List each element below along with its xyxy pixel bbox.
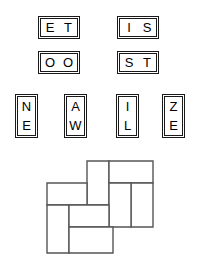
letter-tile-ze[interactable]: Z E (162, 94, 185, 138)
letter-tile-aw-letter-1: A (67, 97, 84, 116)
piece-right-inner-vertical[interactable] (109, 183, 131, 227)
piece-top-right-horizontal[interactable] (109, 161, 153, 183)
letter-tile-aw-inner-border: A W (66, 96, 85, 136)
letter-tile-et-inner-border: E T (40, 18, 78, 37)
letter-tile-il[interactable]: I L (116, 94, 139, 138)
letter-tile-il-letter-1: I (119, 97, 136, 116)
piece-top-middle-vertical[interactable] (87, 161, 109, 205)
letter-tile-st-letter-1: S (120, 56, 138, 69)
dissection-piece-layer (47, 161, 153, 253)
piece-right-upper-vertical[interactable] (131, 183, 153, 227)
rectangle-dissection-diagram (46, 160, 164, 254)
letter-tile-et-letter-1: E (41, 21, 59, 34)
letter-tile-ne-inner-border: N E (17, 96, 36, 136)
letter-tile-aw[interactable]: A W (64, 94, 87, 138)
letter-tile-aw-letter-2: W (67, 116, 84, 135)
letter-tile-is[interactable]: I S (117, 16, 159, 39)
letter-tile-ne[interactable]: N E (15, 94, 38, 138)
letter-tile-ze-letter-2: E (165, 116, 182, 135)
letter-tile-oo[interactable]: O O (38, 51, 80, 74)
piece-bottom-horizontal[interactable] (69, 227, 113, 253)
letter-tile-oo-letter-1: O (41, 56, 59, 69)
piece-left-upper-horizontal[interactable] (47, 183, 87, 205)
letter-tile-is-letter-1: I (120, 21, 138, 34)
letter-tile-ze-inner-border: Z E (164, 96, 183, 136)
letter-tile-st[interactable]: S T (117, 51, 159, 74)
letter-tile-et-letter-2: T (59, 21, 77, 34)
letter-tile-st-letter-2: T (138, 56, 156, 69)
letter-tile-oo-inner-border: O O (40, 53, 78, 72)
letter-tile-il-inner-border: I L (118, 96, 137, 136)
letter-tile-ne-letter-2: E (18, 116, 35, 135)
piece-middle-horizontal[interactable] (69, 205, 109, 227)
piece-left-lower-vertical[interactable] (47, 205, 69, 253)
letter-tile-et[interactable]: E T (38, 16, 80, 39)
letter-tile-st-inner-border: S T (119, 53, 157, 72)
letter-tile-ze-letter-1: Z (165, 97, 182, 116)
letter-tile-is-letter-2: S (138, 21, 156, 34)
puzzle-figure: E T I S O O S T N E A W (0, 0, 201, 266)
letter-tile-oo-letter-2: O (59, 56, 77, 69)
dissection-svg (46, 160, 164, 254)
letter-tile-ne-letter-1: N (18, 97, 35, 116)
letter-tile-il-letter-2: L (119, 116, 136, 135)
letter-tile-is-inner-border: I S (119, 18, 157, 37)
